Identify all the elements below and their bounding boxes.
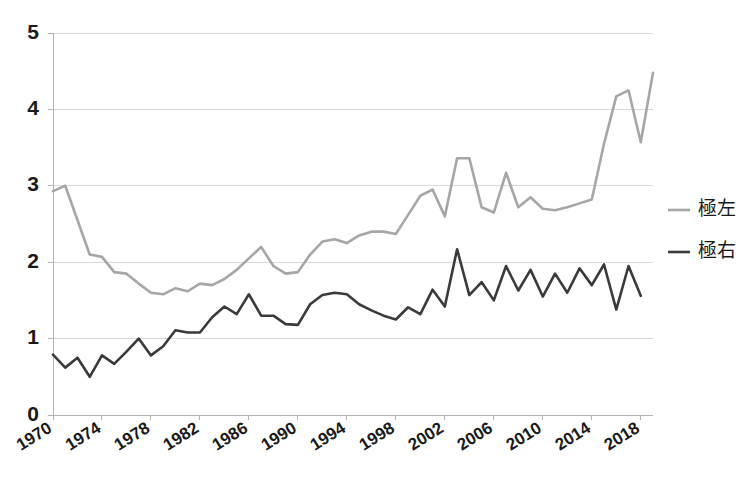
- line-chart: 012345 197019741978198219861990199419982…: [0, 0, 750, 485]
- legend-label-far-right: 極右: [698, 240, 736, 261]
- x-tick-label-2018: 2018: [601, 418, 643, 454]
- x-tick-label-1982: 1982: [160, 418, 202, 454]
- y-axis: [48, 33, 53, 415]
- x-tick-label-2014: 2014: [552, 418, 595, 454]
- data-series: [53, 73, 653, 377]
- x-tick-label-2006: 2006: [454, 418, 496, 454]
- x-tick-label-2010: 2010: [503, 418, 545, 454]
- y-tick-label-2: 2: [27, 249, 39, 272]
- series-line-far-right: [53, 249, 641, 377]
- x-tick-label-2002: 2002: [405, 418, 447, 454]
- y-tick-label-3: 3: [27, 172, 39, 195]
- gridlines: [53, 33, 653, 415]
- y-tick-label-5: 5: [27, 20, 39, 43]
- chart-container: 012345 197019741978198219861990199419982…: [0, 0, 750, 485]
- x-tick-label-1994: 1994: [307, 418, 350, 454]
- x-tick-labels: 1970197419781982198619901994199820022006…: [13, 418, 643, 454]
- x-tick-label-1978: 1978: [111, 418, 153, 454]
- y-tick-label-4: 4: [27, 96, 39, 119]
- y-tick-label-1: 1: [27, 325, 39, 348]
- y-tick-label-0: 0: [27, 402, 39, 425]
- x-tick-label-1986: 1986: [209, 418, 251, 454]
- legend-label-far-left: 極左: [698, 198, 736, 219]
- series-line-far-left: [53, 73, 653, 295]
- x-tick-label-1998: 1998: [356, 418, 398, 454]
- y-tick-labels: 012345: [27, 20, 39, 425]
- x-tick-label-1990: 1990: [258, 418, 300, 454]
- chart-legend: 極左極右: [668, 198, 736, 261]
- x-tick-label-1974: 1974: [62, 418, 105, 454]
